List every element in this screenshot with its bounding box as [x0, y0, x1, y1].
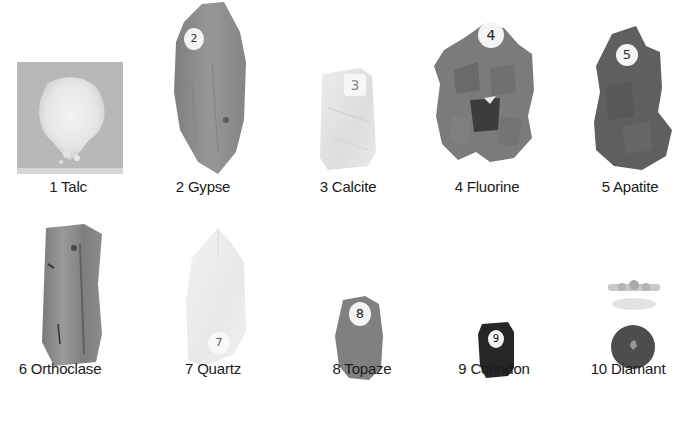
fluorine-number-tag: 4 — [478, 22, 504, 48]
mineral-label-orthoclase: 6 Orthoclase — [19, 360, 102, 377]
quartz-number-tag: 7 — [208, 332, 230, 354]
gypse-crystal-image — [172, 2, 248, 174]
diamond-ring-image — [606, 278, 662, 312]
apatite-specimen: 5 — [592, 26, 672, 170]
mineral-label-diamant: 10 Diamant — [591, 360, 666, 377]
talc-powder-image — [17, 62, 123, 174]
diamant-ring — [606, 278, 662, 312]
calcite-specimen: 3 — [318, 68, 378, 172]
orthoclase-specimen — [40, 224, 106, 366]
gypse-specimen: 2 — [172, 2, 248, 174]
topaze-number-tag: 8 — [349, 302, 371, 326]
mineral-label-quartz: 7 Quartz — [185, 360, 241, 377]
mineral-label-gypse: 2 Gypse — [176, 178, 230, 195]
apatite-number-tag: 5 — [616, 44, 638, 66]
orthoclase-crystal-image — [40, 224, 106, 366]
mineral-label-fluorine: 4 Fluorine — [455, 178, 520, 195]
mineral-label-calcite: 3 Calcite — [320, 178, 377, 195]
corindon-number-tag: 9 — [488, 330, 504, 348]
mineral-label-talc: 1 Talc — [49, 178, 87, 195]
mineral-label-apatite: 5 Apatite — [602, 178, 659, 195]
mineral-label-corindon: 9 Corindon — [458, 360, 529, 377]
fluorine-specimen: 4 — [434, 20, 538, 162]
calcite-number-tag: 3 — [344, 74, 366, 96]
talc-specimen — [17, 62, 123, 174]
gypse-number-tag: 2 — [184, 28, 204, 50]
mineral-label-topaze: 8 Topaze — [332, 360, 391, 377]
quartz-specimen: 7 — [184, 228, 254, 366]
